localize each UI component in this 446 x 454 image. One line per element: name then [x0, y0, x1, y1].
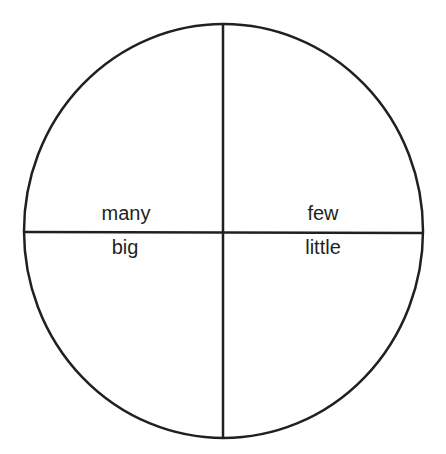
label-top-right: few [307, 202, 339, 224]
label-bottom-left: big [112, 236, 139, 258]
label-top-left: many [102, 202, 151, 224]
horizontal-divider [24, 232, 423, 233]
label-bottom-right: little [305, 236, 341, 258]
quadrant-circle-diagram: many few big little [0, 0, 446, 454]
